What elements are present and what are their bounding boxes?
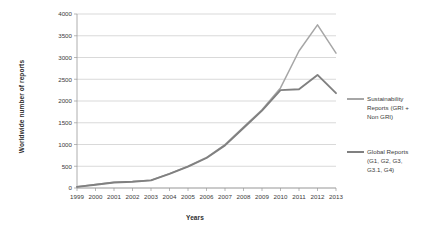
y-tick-label: 2500 xyxy=(58,76,72,83)
legend-item-sustainability-reports[interactable]: Sustainability Reports (GRI + Non GRI) xyxy=(347,94,441,122)
x-tick-label: 2006 xyxy=(200,193,214,200)
x-tick-label: 2009 xyxy=(255,193,269,200)
legend-line-swatch-global xyxy=(347,151,364,153)
chart-plot-area: 0500100015002000250030003500400019992000… xyxy=(0,0,446,244)
x-tick-label: 1999 xyxy=(70,193,84,200)
x-tick-label: 2008 xyxy=(237,193,251,200)
x-tick-label: 2005 xyxy=(181,193,195,200)
x-tick-label: 2007 xyxy=(218,193,232,200)
y-tick-label: 0 xyxy=(69,184,73,191)
x-axis-title: Years xyxy=(165,214,225,221)
y-tick-label: 3500 xyxy=(58,32,72,39)
legend-label-sustainability: Sustainability Reports (GRI + Non GRI) xyxy=(367,94,441,122)
y-tick-label: 2000 xyxy=(58,97,72,104)
x-tick-label: 2004 xyxy=(163,193,177,200)
series-line-sustainability xyxy=(77,25,336,187)
y-tick-label: 4000 xyxy=(58,10,72,17)
x-tick-label: 2010 xyxy=(274,193,288,200)
x-tick-label: 2003 xyxy=(144,193,158,200)
x-tick-label: 2012 xyxy=(311,193,325,200)
x-tick-label: 2002 xyxy=(126,193,140,200)
legend-line-swatch-sustainability xyxy=(347,98,364,100)
x-tick-label: 2000 xyxy=(89,193,103,200)
chart-figure: 0500100015002000250030003500400019992000… xyxy=(0,0,446,244)
x-tick-label: 2011 xyxy=(292,193,306,200)
x-tick-label: 2013 xyxy=(329,193,343,200)
legend-item-global-reports[interactable]: Global Reports (G1, G2, G3, G3.1, G4) xyxy=(347,147,441,175)
y-axis-title: Worldwide number of reports xyxy=(18,47,25,167)
y-tick-label: 1000 xyxy=(58,141,72,148)
y-tick-label: 1500 xyxy=(58,119,72,126)
series-line-global xyxy=(77,75,336,187)
y-tick-label: 3000 xyxy=(58,54,72,61)
y-tick-label: 500 xyxy=(62,163,73,170)
legend-label-global: Global Reports (G1, G2, G3, G3.1, G4) xyxy=(367,147,441,175)
x-tick-label: 2001 xyxy=(107,193,121,200)
